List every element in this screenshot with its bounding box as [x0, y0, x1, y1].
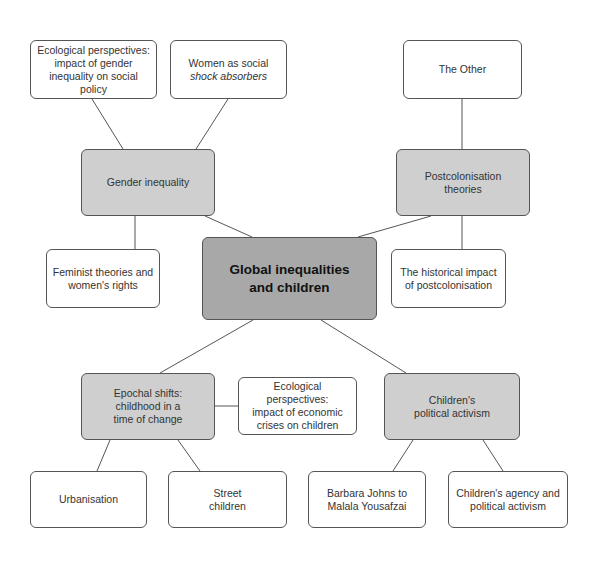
- text-line: political activism: [456, 500, 560, 513]
- node-the-other: The Other: [403, 40, 522, 99]
- text-line-italic: shock absorbers: [189, 70, 269, 83]
- text-line: of postcolonisation: [400, 279, 496, 292]
- node-street-children: Streetchildren: [168, 471, 287, 528]
- text-line: political activism: [414, 407, 490, 420]
- node-central-topic: Global inequalitiesand children: [202, 237, 377, 320]
- text-line: Epochal shifts:: [114, 387, 183, 400]
- node-postcolonisation: Postcolonisationtheories: [396, 149, 530, 216]
- node-ecological-gender: Ecological perspectives:impact of gender…: [30, 40, 157, 99]
- text-line: The historical impact: [400, 266, 496, 279]
- text-line: theories: [425, 183, 501, 196]
- node-feminist: Feminist theories andwomen's rights: [46, 249, 160, 308]
- node-epochal-shifts: Epochal shifts:childhood in atime of cha…: [81, 373, 215, 440]
- text-line: The Other: [439, 63, 486, 76]
- text-line: Gender inequality: [107, 176, 189, 189]
- text-line: impact of economic: [243, 406, 352, 419]
- node-ecological-economic: Ecological perspectives:impact of econom…: [238, 377, 357, 435]
- node-children-agency: Children's agency andpolitical activism: [448, 471, 568, 528]
- text-line: inequality on social policy: [35, 70, 152, 96]
- node-women-shock-absorbers: Women as socialshock absorbers: [170, 40, 287, 99]
- node-barbara-johns: Barbara Johns toMalala Yousafzai: [308, 471, 426, 528]
- text-line: Feminist theories and: [53, 266, 153, 279]
- node-political-activism: Children'spolitical activism: [384, 373, 520, 440]
- text-line: Barbara Johns to: [327, 487, 407, 500]
- text-line: Global inequalities: [229, 261, 349, 279]
- text-line: impact of gender: [35, 57, 152, 70]
- text-line: Ecological perspectives:: [243, 380, 352, 406]
- text-line: crises on children: [243, 419, 352, 432]
- node-urbanisation: Urbanisation: [30, 471, 147, 528]
- text-line: Malala Yousafzai: [327, 500, 407, 513]
- text-line: Postcolonisation: [425, 170, 501, 183]
- node-gender-inequality: Gender inequality: [81, 149, 215, 216]
- text-line: Ecological perspectives:: [35, 44, 152, 57]
- text-line: time of change: [114, 413, 183, 426]
- text-line: Children's agency and: [456, 487, 560, 500]
- text-line: Urbanisation: [59, 493, 118, 506]
- text-line: Children's: [414, 394, 490, 407]
- node-historical-impact: The historical impactof postcolonisation: [391, 249, 506, 308]
- text-line: children: [209, 500, 246, 513]
- text-line: Street: [209, 487, 246, 500]
- text-line: and children: [229, 279, 349, 297]
- text-line: women's rights: [53, 279, 153, 292]
- text-line: childhood in a: [114, 400, 183, 413]
- text-line: Women as social: [189, 57, 269, 70]
